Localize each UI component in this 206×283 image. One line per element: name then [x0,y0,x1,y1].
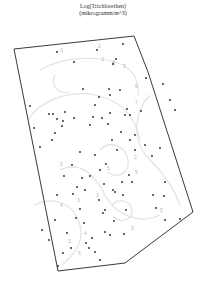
contour-label: 5 [107,165,110,171]
contour-label: 5 [135,169,138,175]
sample-point [121,181,123,183]
sample-point [152,194,154,196]
sample-point [75,217,77,219]
sample-point [96,49,98,51]
contour-label: 3 [77,197,80,203]
contour-label: 7 [135,99,138,105]
sample-point [145,77,147,79]
sample-point [134,149,136,151]
contour-label: 3 [68,238,71,244]
sample-point [111,139,113,141]
sample-point [113,220,115,222]
contour-label: 3 [60,47,63,53]
sample-point [129,114,131,116]
contour-map: 32344567255533443555 [0,0,206,283]
sample-point [82,88,84,90]
sample-point [63,175,65,177]
contour-label: 2 [98,43,101,49]
sample-point [119,89,121,91]
sample-point [109,112,111,114]
sample-point [33,127,35,129]
sample-point [61,125,63,127]
sample-point [71,164,73,166]
sample-point [54,132,56,134]
sample-point [164,219,166,221]
contour-label: 5 [131,225,134,231]
contour-labels: 32344567255533443555 [60,43,163,256]
sample-point [99,169,101,171]
sample-point [94,154,96,156]
sample-point [174,109,176,111]
sample-point [72,193,74,195]
sample-point [179,218,181,220]
sample-point [73,117,75,119]
contour-label: 5 [78,250,81,256]
sample-point [81,177,83,179]
sample-point [62,120,64,122]
sample-point [151,155,153,157]
sample-point [120,131,122,133]
sample-point [89,124,91,126]
contour-label: 4 [84,230,87,236]
sample-point [159,147,161,149]
sample-point [129,139,131,141]
contour-line [112,201,132,220]
sample-point [70,247,72,249]
sample-point [94,104,96,106]
sample-point [79,208,81,210]
sample-point [51,139,53,141]
sample-point [89,175,91,177]
sample-point [84,189,86,191]
sample-point [94,251,96,253]
sample-point [131,181,133,183]
sample-point [92,116,94,118]
sample-point [162,83,164,85]
sample-point [124,114,126,116]
sample-point [98,199,100,201]
sample-point [62,252,64,254]
contour-line [53,75,70,93]
sample-point [122,43,124,45]
sample-point [169,99,171,101]
contour-label: 5 [123,63,126,69]
sample-point [104,231,106,233]
sample-point [125,209,127,211]
contour-line [100,145,128,175]
sample-point [66,232,68,234]
contour-label: 5 [60,161,63,167]
contour-label: 3 [96,192,99,198]
sample-point [101,117,103,119]
sample-point [115,58,117,60]
sample-point [56,51,58,53]
sample-point [112,189,114,191]
sample-point [164,181,166,183]
sample-point [52,113,54,115]
sample-point [29,105,31,107]
study-area-boundary [14,36,193,271]
sample-point [155,207,157,209]
sample-point [112,63,114,65]
contour-label: 5 [160,207,163,213]
sample-point [73,61,75,63]
contour-line [28,94,140,140]
sample-point [109,234,111,236]
sample-point [64,111,66,113]
sample-point [104,209,106,211]
sample-point [102,212,104,214]
sample-point [57,265,59,267]
sample-point [56,194,58,196]
sample-point [91,237,93,239]
contour-label: 6 [135,83,138,89]
sample-point [140,110,142,112]
sample-point [116,149,118,151]
contour-label: 3 [101,56,104,62]
sample-point [163,195,165,197]
sample-point [105,163,107,165]
sample-point [79,151,81,153]
sample-points [29,43,181,267]
sample-point [114,191,116,193]
sample-point [56,118,58,120]
sample-point [83,222,85,224]
sample-point [48,239,50,241]
sample-point [103,183,105,185]
